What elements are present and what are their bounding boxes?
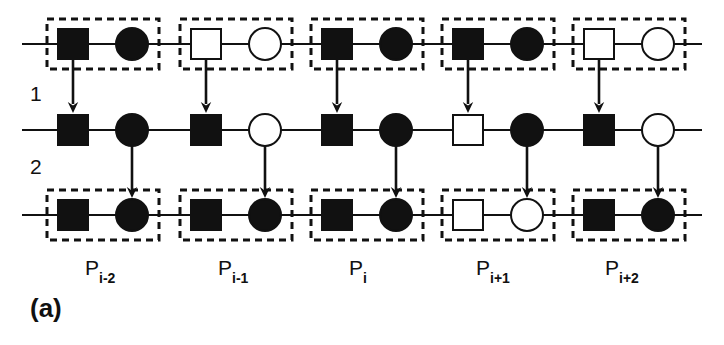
period-label-base: P bbox=[476, 256, 490, 279]
period-label-5: Pi+2 bbox=[605, 256, 639, 283]
filled-square-node-row1-p4 bbox=[453, 29, 483, 59]
row-label-2: 2 bbox=[30, 155, 42, 179]
filled-circle-node-row3-p5 bbox=[642, 199, 674, 231]
filled-square-node-row2-p2 bbox=[191, 115, 221, 145]
figure-panel-a: 12 Pi-2Pi-1PiPi+1Pi+2 (a) bbox=[0, 0, 724, 345]
filled-square-node-row2-p3 bbox=[322, 115, 352, 145]
period-label-base: P bbox=[218, 256, 232, 279]
open-square-node-row3-p4 bbox=[453, 200, 483, 230]
period-label-base: P bbox=[349, 256, 363, 279]
filled-circle-node-row1-p3 bbox=[380, 28, 412, 60]
panel-label: (a) bbox=[30, 293, 62, 324]
open-square-node-row1-p2 bbox=[191, 29, 221, 59]
open-circle-node-row1-p2 bbox=[249, 28, 281, 60]
period-label-1: Pi-2 bbox=[85, 256, 115, 283]
filled-square-node-row3-p1 bbox=[58, 200, 88, 230]
open-circle-node-row2-p5 bbox=[642, 114, 674, 146]
filled-circle-node-row3-p3 bbox=[380, 199, 412, 231]
period-label-subscript: i+1 bbox=[490, 270, 510, 286]
filled-square-node-row1-p3 bbox=[322, 29, 352, 59]
period-label-base: P bbox=[605, 256, 619, 279]
open-square-node-row2-p4 bbox=[453, 115, 483, 145]
open-circle-node-row3-p4 bbox=[511, 199, 543, 231]
period-label-3: Pi bbox=[349, 256, 367, 283]
period-label-subscript: i-2 bbox=[99, 270, 115, 286]
period-label-base: P bbox=[85, 256, 99, 279]
open-circle-node-row2-p2 bbox=[249, 114, 281, 146]
filled-circle-node-row2-p1 bbox=[116, 114, 148, 146]
filled-square-node-row3-p5 bbox=[584, 200, 614, 230]
filled-square-node-row3-p3 bbox=[322, 200, 352, 230]
chain-diagram-svg bbox=[0, 0, 724, 345]
filled-circle-node-row2-p3 bbox=[380, 114, 412, 146]
row-label-1: 1 bbox=[30, 82, 42, 106]
period-label-subscript: i+2 bbox=[619, 270, 639, 286]
filled-square-node-row3-p2 bbox=[191, 200, 221, 230]
filled-square-node-row2-p1 bbox=[58, 115, 88, 145]
period-label-subscript: i bbox=[363, 270, 367, 286]
filled-square-node-row2-p5 bbox=[584, 115, 614, 145]
open-square-node-row1-p5 bbox=[584, 29, 614, 59]
filled-circle-node-row1-p1 bbox=[116, 28, 148, 60]
filled-circle-node-row2-p4 bbox=[511, 114, 543, 146]
filled-circle-node-row3-p1 bbox=[116, 199, 148, 231]
period-label-2: Pi-1 bbox=[218, 256, 248, 283]
period-label-subscript: i-1 bbox=[232, 270, 248, 286]
filled-circle-node-row1-p4 bbox=[511, 28, 543, 60]
filled-square-node-row1-p1 bbox=[58, 29, 88, 59]
filled-circle-node-row3-p2 bbox=[249, 199, 281, 231]
period-label-4: Pi+1 bbox=[476, 256, 510, 283]
open-circle-node-row1-p5 bbox=[642, 28, 674, 60]
